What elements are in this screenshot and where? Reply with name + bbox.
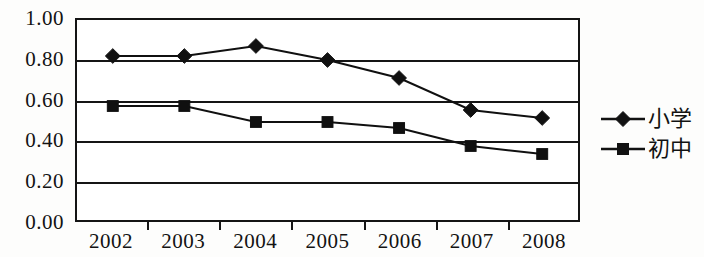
data-point-marker: [248, 39, 263, 54]
legend-label: 小学: [648, 108, 692, 130]
x-axis-tick-label: 2005: [306, 228, 350, 254]
y-axis-tick-label: 0.40: [25, 130, 64, 151]
y-axis-tick-label: 0.20: [25, 171, 64, 192]
x-axis-tick-label: 2007: [450, 228, 494, 254]
x-axis-tick-label: 2008: [522, 228, 566, 254]
data-point-marker: [463, 103, 478, 118]
plot-area: [75, 18, 580, 222]
series-1: [105, 39, 549, 126]
data-point-marker: [107, 101, 118, 112]
x-axis-tick-label: 2006: [378, 228, 422, 254]
legend-marker-square-icon: [600, 138, 646, 160]
data-point-marker: [322, 117, 333, 128]
legend-marker-diamond-icon: [600, 108, 646, 130]
chart-legend: 小学初中: [600, 104, 704, 164]
data-point-marker: [535, 111, 550, 126]
y-axis-tick-label: 1.00: [25, 8, 64, 29]
data-point-marker: [105, 49, 120, 64]
legend-item: 初中: [600, 134, 704, 164]
data-point-marker: [465, 141, 476, 152]
x-axis-tick-label: 2004: [233, 228, 277, 254]
y-axis-tick-label: 0.60: [25, 89, 64, 110]
data-point-marker: [179, 101, 190, 112]
data-layer: [77, 20, 578, 220]
data-point-marker: [250, 117, 261, 128]
y-axis-labels: 0.000.200.400.600.801.00: [0, 0, 72, 257]
legend-item: 小学: [600, 104, 704, 134]
chart-figure: 0.000.200.400.600.801.00 200220032004200…: [0, 0, 704, 257]
x-axis-tick-label: 2002: [89, 228, 133, 254]
y-axis-tick-label: 0.80: [25, 48, 64, 69]
y-axis-tick-label: 0.00: [25, 212, 64, 233]
series-line: [113, 106, 542, 154]
data-point-marker: [320, 53, 335, 68]
legend-label: 初中: [648, 138, 692, 160]
data-point-marker: [537, 149, 548, 160]
data-point-marker: [177, 49, 192, 64]
x-axis-tick-label: 2003: [161, 228, 205, 254]
x-axis-labels: 2002200320042005200620072008: [75, 228, 580, 257]
data-point-marker: [394, 123, 405, 134]
data-point-marker: [392, 71, 407, 86]
series-2: [107, 101, 547, 160]
